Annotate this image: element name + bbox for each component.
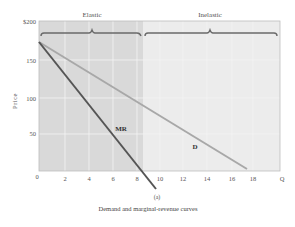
elastic-label: Elastic	[82, 11, 101, 19]
x-tick-4: 4	[87, 175, 91, 182]
x-tick-6: 6	[111, 175, 115, 182]
inelastic-label: Inelastic	[198, 11, 222, 19]
x-tick-16: 16	[229, 175, 236, 182]
inelastic-region	[143, 21, 280, 171]
mr-label: MR	[115, 125, 128, 133]
x-tick-12: 12	[180, 175, 187, 182]
y-tick-50: 50	[30, 130, 37, 137]
panel-label: (a)	[154, 194, 161, 201]
y-tick-100: 100	[26, 95, 36, 102]
x-tick-10: 10	[157, 175, 164, 182]
x-tick-18: 18	[250, 175, 257, 182]
d-label: D	[192, 143, 197, 151]
y-tick-200: $200	[23, 18, 36, 25]
y-axis-label: Price	[11, 93, 18, 109]
x-tick-14: 14	[204, 175, 211, 182]
y-tick-150: 150	[26, 57, 36, 64]
demand-mr-chart: Elastic Inelastic MR D $200 150 100 50 P…	[0, 0, 295, 227]
x-tick-8: 8	[135, 175, 138, 182]
chart-caption: Demand and marginal-revenue curves	[99, 205, 198, 212]
x-tick-0: 0	[35, 173, 38, 180]
x-tick-2: 2	[63, 175, 66, 182]
x-axis-label: Q	[280, 175, 285, 182]
x-ticks: 0 2 4 6 8 10 12 14 16 18 Q	[35, 173, 284, 182]
